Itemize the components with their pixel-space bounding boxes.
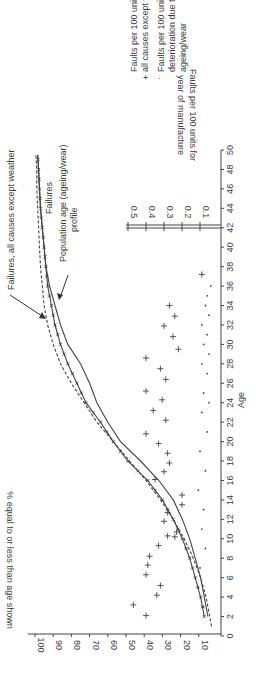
percent-tick-label: 90 [54,640,64,650]
dot-marker-icon [203,392,205,394]
rotated-line-chart: 0246810121416182022242628303234363840424… [0,0,256,696]
age-tick-label: 36 [225,281,235,291]
percent-tick-label: 10 [200,640,210,650]
plus-marker-icon [143,431,149,437]
plus-marker-icon [166,460,172,466]
plus-marker-icon [163,417,169,423]
annotation-population-1: Population age (ageing/wear) [58,144,68,262]
dot-marker-icon [208,353,210,355]
plus-marker-icon [156,441,162,447]
percent-tick-label: 50 [127,640,137,650]
legend-dot-line1: Faults per 100 units [156,0,166,72]
dot-marker-icon [203,606,205,608]
percent-tick-label: 20 [182,640,192,650]
age-tick-label: 20 [225,437,235,447]
x-marker-icon [92,411,95,414]
age-tick-label: 0 [225,633,235,638]
age-tick-label: 42 [225,223,235,233]
faults-tick-label: 0.1 [201,206,211,219]
age-tick-label: 28 [225,359,235,369]
arrowhead-icon [57,293,63,300]
legend-plus-marker: + [141,75,151,80]
age-tick-label: 12 [225,514,235,524]
plus-marker-icon [147,553,153,559]
age-tick-label: 38 [225,262,235,272]
plus-marker-icon [159,397,165,403]
age-tick-label: 16 [225,475,235,485]
plus-marker-icon [172,313,178,319]
plus-marker-icon [157,582,163,588]
dot-marker-icon [199,567,201,569]
x-marker-icon [126,460,129,463]
percent-tick-label: 30 [163,640,173,650]
plus-marker-icon [154,592,160,598]
y-axis-title: % equal to or less than age shown [5,491,15,629]
plus-marker-icon [152,477,158,483]
age-tick-label: 44 [225,203,235,213]
age-axis-ticks: 0246810121416182022242628303234363840424… [221,145,235,639]
faults-tick-label: 0.4 [147,206,157,219]
plus-marker-icon [163,376,169,382]
dot-marker-icon [206,295,208,297]
plus-marker-icon [157,366,163,372]
percent-axis-ticks: 102030405060708090100 [35,634,210,653]
plus-marker-icon [179,492,185,498]
plus-marker-icon [166,303,172,309]
age-tick-label: 34 [225,301,235,311]
plus-marker-icon [161,323,167,329]
age-tick-label: 10 [225,534,235,544]
annotation-arrow-all-causes [10,295,45,318]
faults-tick-label: 0.2 [183,206,193,219]
age-tick-label: 32 [225,320,235,330]
x-marker-icon [105,430,108,433]
legend-plus-line1: Faults per 100 units [129,0,139,72]
age-tick-label: 4 [225,595,235,600]
plus-marker-icon [143,355,149,361]
dot-marker-icon [206,334,208,336]
plus-marker-icon [150,407,156,413]
dot-marker-icon [201,324,203,326]
plus-marker-icon [143,572,149,578]
dot-marker-icon [201,528,203,530]
x-marker-icon [154,489,157,492]
age-tick-label: 14 [225,495,235,505]
dot-marker-icon [205,305,207,307]
legend-dot-marker: · [154,77,164,80]
age-tick-label: 8 [225,556,235,561]
age-tick-label: 6 [225,575,235,580]
annotation-all-causes: Failures, all causes except weather [6,149,16,290]
dot-marker-icon [201,363,203,365]
plus-marker-icon [175,346,181,352]
faults-tick-label: 0.3 [165,206,175,219]
plus-marker-icon [199,271,205,277]
percent-tick-label: 100 [36,637,46,652]
dot-marker-icon [201,412,203,414]
plus-marker-icon [179,502,185,508]
age-tick-label: 50 [225,145,235,155]
plus-marker-icon [170,334,176,340]
dot-marker-icon [203,509,205,511]
legend-plus-line2: all causes except weather [140,0,150,72]
x-axis-title: Age [236,392,246,408]
age-tick-label: 46 [225,184,235,194]
age-tick-label: 26 [225,378,235,388]
plus-marker-icon [143,388,149,394]
dot-marker-icon [205,548,207,550]
age-tick-label: 30 [225,339,235,349]
dot-marker-icon [210,285,212,287]
plus-marker-icon [161,518,167,524]
dot-marker-icon [203,344,205,346]
dot-marker-icon [208,314,210,316]
dot-marker-icon [206,373,208,375]
age-tick-label: 40 [225,242,235,252]
age-tick-label: 24 [225,398,235,408]
legend-dot-line2: deterioration due to [167,0,177,72]
annotation-failures: Failures [44,181,54,214]
age-tick-label: 48 [225,164,235,174]
faults-axis: 0.10.20.30.40.5 [126,206,221,231]
plus-marker-icon [145,562,151,568]
percent-tick-label: 70 [91,640,101,650]
age-tick-label: 22 [225,417,235,427]
dot-marker-icon [208,402,210,404]
percent-tick-label: 60 [109,640,119,650]
